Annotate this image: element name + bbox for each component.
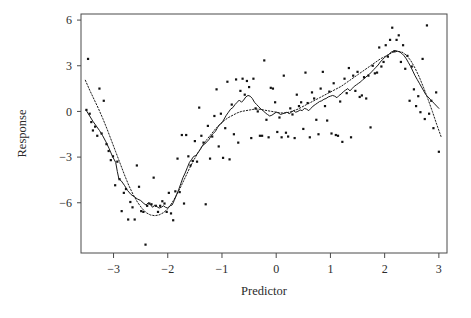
- data-point: [419, 111, 421, 113]
- data-point: [157, 211, 159, 213]
- data-point: [121, 210, 123, 212]
- data-point: [341, 141, 343, 143]
- data-point: [296, 94, 298, 96]
- data-point: [402, 44, 404, 46]
- data-point: [231, 103, 233, 105]
- x-tick-label: 1: [327, 262, 333, 276]
- x-tick-label: 0: [273, 262, 279, 276]
- data-point: [350, 136, 352, 138]
- data-point: [138, 186, 140, 188]
- data-point: [354, 90, 356, 92]
- data-point: [289, 107, 291, 109]
- data-point: [287, 135, 289, 137]
- x-tick-label: 3: [436, 262, 442, 276]
- data-point: [346, 92, 348, 94]
- data-point: [198, 107, 200, 109]
- data-point: [110, 159, 112, 161]
- data-point: [163, 202, 165, 204]
- data-point: [270, 87, 272, 89]
- x-tick-label: 2: [382, 262, 388, 276]
- data-point: [348, 67, 350, 69]
- data-point: [96, 135, 98, 137]
- data-point: [302, 128, 304, 130]
- data-point: [179, 191, 181, 193]
- data-point: [244, 94, 246, 96]
- x-tick-label: −1: [216, 262, 229, 276]
- data-point: [300, 101, 302, 103]
- data-point: [129, 201, 131, 203]
- y-axis-title: Response: [15, 109, 29, 157]
- data-point: [215, 88, 217, 90]
- data-point: [224, 127, 226, 129]
- data-point: [391, 27, 393, 29]
- local-linear-fit-curve: [86, 51, 438, 209]
- data-point: [181, 134, 183, 136]
- x-tick-label: −2: [161, 262, 174, 276]
- data-point: [233, 133, 235, 135]
- data-point: [131, 206, 133, 208]
- data-point: [274, 101, 276, 103]
- data-point: [92, 129, 94, 131]
- data-point: [432, 127, 434, 129]
- data-point: [144, 244, 146, 246]
- data-point: [207, 125, 209, 127]
- data-point: [330, 132, 332, 134]
- data-point: [278, 116, 280, 118]
- x-axis-ticks: −3−2−10123: [107, 253, 442, 276]
- scatter-plot-with-fitted-curves: 630−3−6 −3−2−10123 Predictor Response: [0, 0, 471, 318]
- data-point: [259, 135, 261, 137]
- y-tick-label: −6: [59, 196, 72, 210]
- figure-container: 630−3−6 −3−2−10123 Predictor Response: [0, 0, 471, 318]
- data-point: [413, 88, 415, 90]
- data-point: [194, 140, 196, 142]
- data-point: [168, 192, 170, 194]
- y-tick-label: 6: [66, 13, 72, 27]
- data-point: [356, 71, 358, 73]
- data-point: [352, 75, 354, 77]
- data-point: [222, 157, 224, 159]
- data-point: [136, 164, 138, 166]
- data-point: [339, 100, 341, 102]
- data-point: [228, 158, 230, 160]
- data-point: [389, 39, 391, 41]
- x-tick-label: −3: [107, 262, 120, 276]
- data-point: [172, 219, 174, 221]
- data-point: [263, 59, 265, 61]
- data-point: [276, 131, 278, 133]
- data-point: [404, 68, 406, 70]
- data-point: [380, 65, 382, 67]
- data-point: [196, 161, 198, 163]
- data-point: [285, 132, 287, 134]
- data-point: [87, 58, 89, 60]
- y-tick-label: 0: [66, 105, 72, 119]
- data-points-group: [85, 24, 440, 245]
- data-point: [428, 113, 430, 115]
- data-point: [257, 110, 259, 112]
- data-point: [435, 91, 437, 93]
- data-point: [378, 46, 380, 48]
- data-point: [272, 87, 274, 89]
- data-point: [268, 136, 270, 138]
- data-point: [218, 145, 220, 147]
- data-point: [322, 71, 324, 73]
- data-point: [309, 136, 311, 138]
- data-point: [183, 202, 185, 204]
- data-point: [395, 39, 397, 41]
- data-point: [213, 115, 215, 117]
- data-point: [283, 75, 285, 77]
- data-point: [311, 91, 313, 93]
- data-point: [385, 44, 387, 46]
- data-point: [313, 97, 315, 99]
- data-point: [265, 119, 267, 121]
- data-point: [361, 94, 363, 96]
- data-point: [422, 58, 424, 60]
- data-point: [417, 95, 419, 97]
- data-point: [153, 177, 155, 179]
- data-point: [185, 134, 187, 136]
- data-point: [237, 142, 239, 144]
- data-point: [335, 134, 337, 136]
- data-point: [235, 78, 237, 80]
- data-point: [261, 135, 263, 137]
- data-point: [317, 133, 319, 135]
- data-point: [365, 97, 367, 99]
